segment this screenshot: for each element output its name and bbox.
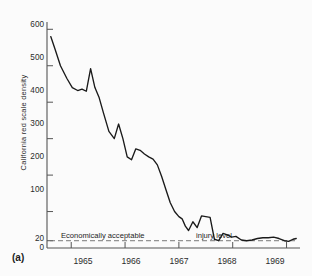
chart-plot-area — [0, 0, 312, 276]
axis-lines — [47, 22, 300, 248]
y-tick-marks — [47, 29, 53, 240]
x-tick-marks — [71, 242, 286, 248]
data-series-line — [51, 37, 296, 242]
figure-panel: California red scale density (a) 600 500… — [0, 0, 312, 276]
